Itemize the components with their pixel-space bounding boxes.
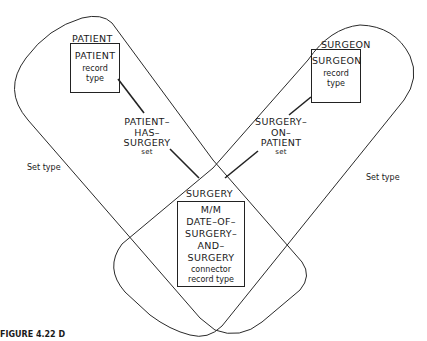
surgeon-box-subtitle-2: type	[312, 79, 360, 88]
connector-line-3: SURGERY–	[178, 229, 244, 240]
set-link-surgeon-to-set	[289, 97, 311, 115]
patient-box-title: PATIENT	[71, 51, 119, 62]
set-suffix: set	[120, 149, 174, 157]
diagram-canvas	[0, 0, 427, 341]
set-suffix: set	[252, 149, 310, 157]
set-type-label-left: Set type	[27, 164, 61, 173]
surgery-connector-label: SURGERY	[186, 189, 233, 200]
surgery-on-patient-set-label: SURGERY– ON– PATIENT set	[252, 117, 310, 157]
patient-record-box: PATIENT record type	[70, 43, 120, 93]
set-link-patient-to-set	[118, 79, 144, 113]
patient-has-surgery-set-label: PATIENT– HAS– SURGERY set	[120, 117, 174, 157]
figure-caption: FIGURE 4.22 D	[0, 331, 65, 340]
patient-box-subtitle-1: record	[71, 64, 119, 73]
set-link-set-to-surgery-left	[170, 149, 199, 178]
connector-line-4: AND–	[178, 241, 244, 252]
connector-subtitle-2: record type	[178, 275, 244, 284]
connector-line-2: DATE–OF–	[178, 217, 244, 228]
connector-subtitle-1: connector	[178, 265, 244, 274]
set-type-boundary-left	[14, 16, 306, 333]
surgeon-box-subtitle-1: record	[312, 69, 360, 78]
set-type-label-right: Set type	[366, 174, 400, 183]
patient-box-subtitle-2: type	[71, 74, 119, 83]
connector-line-1: M/M	[178, 205, 244, 216]
connector-line-5: SURGERY	[178, 253, 244, 264]
surgeon-box-title: SURGEON	[312, 56, 360, 67]
surgeon-record-box: SURGEON record type	[311, 49, 361, 103]
surgery-connector-box: M/M DATE–OF– SURGERY– AND– SURGERY conne…	[177, 201, 245, 287]
